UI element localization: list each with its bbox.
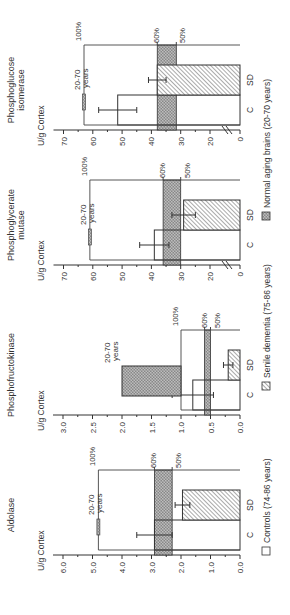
normal-years-label: years — [81, 68, 90, 88]
category-label-sd: SD — [245, 74, 255, 86]
normal-aging-marker — [83, 94, 86, 110]
y-tick-label: 3.0 — [59, 421, 68, 433]
category-label-c: C — [245, 107, 255, 113]
label-60-percent: 60% — [149, 453, 158, 468]
rotated-figure: AldolaseU/g Cortex0.01.02.03.04.05.06.01… — [0, 0, 290, 615]
category-label-sd: SD — [245, 359, 255, 371]
y-tick-label: 70 — [60, 271, 69, 280]
category-label-sd: SD — [245, 209, 255, 221]
normal-years-label: years — [111, 341, 120, 361]
panel-title: isomerase — [16, 69, 26, 111]
label-50-percent: 50% — [213, 313, 222, 328]
chart-panel-3: PhosphoglucoseisomeraseU/g Cortex0203040… — [6, 21, 255, 146]
chart-panel-2: PhosphoglyceratemutaseU/g Cortex02030405… — [6, 156, 255, 281]
y-axis-label: U/g Cortex — [36, 390, 46, 431]
y-tick-label: 0 — [236, 136, 245, 141]
y-tick-label: 60 — [89, 271, 98, 280]
panel-title: Phosphoglucose — [6, 57, 16, 124]
reference-band-60-50 — [205, 330, 211, 415]
normal-years-label: years — [95, 493, 104, 513]
reference-band-60-50 — [154, 470, 172, 555]
bar-senile-dementia — [182, 490, 240, 520]
y-axis-label: U/g Cortex — [36, 530, 46, 571]
bar-senile-dementia — [157, 65, 240, 95]
y-tick-label: 30 — [177, 136, 186, 145]
legend-label-normal: Normal aging brains (20-70 years) — [262, 79, 272, 208]
y-tick-label: 60 — [89, 136, 98, 145]
reference-band-60-50 — [163, 180, 181, 265]
label-60-percent: 60% — [158, 163, 167, 178]
label-60-percent: 60% — [152, 28, 161, 43]
y-tick-label: 5.0 — [89, 561, 98, 573]
label-100-percent: 100% — [74, 21, 83, 41]
y-tick-label: 20 — [206, 271, 215, 280]
legend-swatch-sd — [262, 382, 270, 390]
normal-aging-marker — [97, 519, 100, 535]
y-tick-label: 3.0 — [148, 561, 157, 573]
panel-title: Aldolase — [6, 498, 16, 533]
y-tick-label: 1.0 — [177, 421, 186, 433]
legend-swatch-controls — [262, 547, 270, 555]
label-50-percent: 50% — [174, 453, 183, 468]
normal-years-label: years — [87, 203, 96, 223]
normal-aging-marker — [88, 229, 91, 245]
label-50-percent: 50% — [183, 163, 192, 178]
label-100-percent: 100% — [88, 446, 97, 466]
y-tick-label: 50 — [118, 136, 127, 145]
label-60-percent: 60% — [200, 313, 209, 328]
figure-canvas: AldolaseU/g Cortex0.01.02.03.04.05.06.01… — [0, 0, 290, 615]
label-50-percent: 50% — [178, 28, 187, 43]
panel-title: Phosphoglycerate — [6, 189, 16, 261]
y-tick-label: 0.0 — [236, 561, 245, 573]
category-label-sd: SD — [245, 499, 255, 511]
y-tick-label: 40 — [147, 136, 156, 145]
chart-panel-1: PhosphofructokinaseU/g Cortex0.00.51.01.… — [6, 306, 255, 433]
y-tick-label: 20 — [206, 136, 215, 145]
legend-swatch-normal — [262, 212, 270, 220]
panel-title: mutase — [16, 210, 26, 240]
label-100-percent: 100% — [171, 306, 180, 326]
legend-label-sd: Senile dementia (75-86 years) — [262, 264, 272, 378]
category-label-c: C — [245, 242, 255, 248]
y-tick-label: 2.0 — [118, 421, 127, 433]
y-tick-label: 0.0 — [236, 421, 245, 433]
normal-aging-range-bar — [122, 366, 181, 396]
y-tick-label: 4.0 — [118, 561, 127, 573]
y-tick-label: 50 — [118, 271, 127, 280]
y-tick-label: 2.5 — [89, 421, 98, 433]
legend-label-controls: Controls (74-86 years) — [262, 458, 272, 543]
chart-panel-0: AldolaseU/g Cortex0.01.02.03.04.05.06.01… — [6, 446, 255, 573]
y-axis-label: U/g Cortex — [36, 105, 46, 146]
panel-title: Phosphofructokinase — [6, 333, 16, 417]
category-label-c: C — [245, 532, 255, 538]
y-tick-label: 2.0 — [177, 561, 186, 573]
y-tick-label: 1.5 — [148, 421, 157, 433]
y-tick-label: 30 — [177, 271, 186, 280]
y-tick-label: 70 — [60, 136, 69, 145]
legend: Controls (74-86 years)Senile dementia (7… — [262, 79, 272, 555]
y-tick-label: 0.5 — [207, 421, 216, 433]
y-tick-label: 40 — [147, 271, 156, 280]
y-tick-label: 0 — [236, 271, 245, 276]
category-label-c: C — [245, 392, 255, 398]
label-100-percent: 100% — [80, 156, 89, 176]
y-axis-label: U/g Cortex — [36, 240, 46, 281]
y-tick-label: 1.0 — [207, 561, 216, 573]
y-tick-label: 6.0 — [59, 561, 68, 573]
